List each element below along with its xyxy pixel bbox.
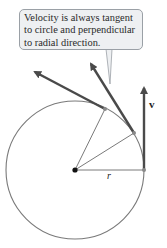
point-on-circle-1	[142, 168, 146, 172]
velocity-arrow-3	[35, 72, 105, 109]
velocity-arrow-2	[91, 64, 134, 133]
point-on-circle-2	[132, 131, 136, 135]
callout-bubble: Velocity is always tangent to circle and…	[19, 9, 143, 50]
callout-line-1: Velocity is always tangent	[24, 12, 138, 24]
velocity-label: v	[149, 98, 155, 110]
callout-line-3: to radial direction.	[24, 37, 138, 49]
center-dot	[72, 167, 77, 172]
point-on-circle-3	[103, 107, 107, 111]
uniform-circular-motion-diagram: Velocity is always tangent to circle and…	[0, 0, 167, 248]
callout-line-2: to circle and perpendicular	[24, 24, 138, 36]
callout-tail	[106, 49, 112, 84]
radius-label: r	[107, 170, 111, 181]
